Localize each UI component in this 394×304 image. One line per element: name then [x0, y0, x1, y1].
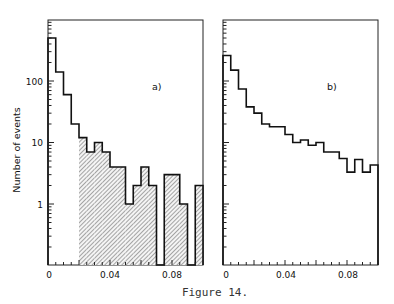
histogram-bin — [79, 138, 87, 265]
histogram-bin — [347, 172, 355, 265]
histogram-bin — [48, 38, 56, 265]
histogram-bin — [239, 89, 247, 265]
panel-a-xtick-label-0: 0 — [46, 270, 52, 280]
panel-a-xtick-label-0.08: 0.08 — [162, 270, 182, 280]
panel-b-xtick-label-0: 0 — [223, 270, 229, 280]
panel-a-ytick-label-100: 100 — [26, 77, 43, 87]
histogram-bin — [363, 172, 371, 265]
histogram-bin — [246, 107, 254, 265]
histogram-bin — [118, 167, 126, 265]
histogram-bin — [293, 143, 301, 266]
histogram-bin — [332, 152, 340, 265]
panel-a-xtick-label-0.04: 0.04 — [100, 270, 120, 280]
panel-a: 100 10 1 0 0.04 0.08 a) Number of events — [11, 20, 203, 280]
histogram-bin — [301, 140, 309, 265]
panel-b: 0 0.04 0.08 b) — [223, 20, 378, 280]
histogram-bin — [195, 185, 203, 265]
histogram-bin — [180, 204, 188, 265]
panel-b-histogram-outline — [223, 55, 378, 265]
histogram-bin — [87, 152, 95, 265]
histogram-bin — [95, 143, 103, 266]
histogram-bin — [126, 204, 134, 265]
histogram-bin — [102, 152, 110, 265]
histogram-bin — [133, 185, 141, 265]
figure: 100 10 1 0 0.04 0.08 a) Number of events… — [0, 0, 394, 304]
panel-a-ytick-label-1: 1 — [37, 200, 43, 210]
panel-b-xtick-label-0.08: 0.08 — [338, 270, 358, 280]
panel-b-label: b) — [327, 81, 337, 92]
histogram-bin — [262, 124, 270, 265]
histogram-bin — [285, 134, 293, 265]
histogram-bin — [231, 70, 239, 265]
histogram-bin — [71, 124, 79, 265]
figure-caption: Figure 14. — [182, 286, 248, 299]
histogram-bin — [324, 152, 332, 265]
y-axis-title: Number of events — [11, 107, 22, 192]
histogram-bin — [339, 158, 347, 265]
histogram-bin — [64, 95, 72, 265]
histogram-bin — [277, 127, 285, 265]
panel-b-x-ticks — [223, 260, 378, 265]
histogram-bin — [355, 159, 363, 265]
histogram-bin — [270, 127, 278, 265]
histogram-bin — [172, 175, 180, 265]
histogram-bin — [254, 113, 262, 265]
histogram-bin — [164, 175, 172, 265]
histogram-bin — [110, 167, 118, 265]
panel-a-ytick-label-10: 10 — [32, 138, 44, 148]
panel-b-xtick-label-0.04: 0.04 — [276, 270, 296, 280]
histogram-bin — [316, 143, 324, 266]
histogram-bin — [370, 165, 378, 265]
panel-a-bars — [48, 38, 203, 265]
histogram-bin — [141, 167, 149, 265]
histogram-bin — [308, 145, 316, 265]
panel-a-label: a) — [152, 81, 162, 92]
histogram-bin — [56, 72, 64, 265]
panel-a-y-ticks — [48, 22, 54, 247]
histogram-bin — [149, 185, 157, 265]
